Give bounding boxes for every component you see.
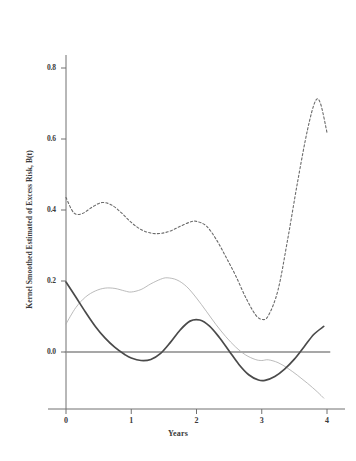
x-axis-tick-label: 4 (320, 416, 334, 425)
x-axis-tick-label: 2 (190, 416, 204, 425)
y-axis-tick-label: 0.0 (34, 347, 56, 356)
y-axis-tick-label: 0.4 (34, 205, 56, 214)
x-axis-tick-label: 0 (59, 416, 73, 425)
upper-dashed-curve (66, 99, 327, 320)
y-axis-tick-label: 0.8 (34, 63, 56, 72)
data-series-group (66, 99, 327, 398)
y-axis-title: Kernel Smoothed Estimated of Excess Risk… (25, 115, 34, 345)
y-axis-tick-label: 0.6 (34, 134, 56, 143)
lower-bold-curve (66, 282, 324, 381)
y-axis-ticks (61, 68, 66, 352)
y-axis-tick-label: 0.2 (34, 276, 56, 285)
x-axis-title: Years (0, 429, 356, 438)
x-axis-ticks (66, 409, 327, 414)
x-axis-tick-label: 1 (124, 416, 138, 425)
chart-figure: 0.00.20.40.60.8 01234 Years Kernel Smoot… (0, 0, 356, 461)
x-axis-tick-label: 3 (255, 416, 269, 425)
